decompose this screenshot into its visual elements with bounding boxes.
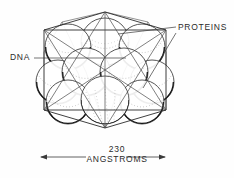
scale-value-label: 230	[0, 145, 234, 154]
figure-container: DNA PROTEINS 230 ANGSTROMS	[0, 0, 234, 178]
scale-units-label: ANGSTROMS	[0, 155, 234, 164]
proteins-label: PROTEINS	[178, 23, 227, 32]
dna-label: DNA	[10, 53, 30, 62]
